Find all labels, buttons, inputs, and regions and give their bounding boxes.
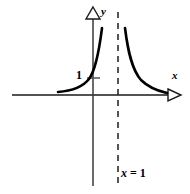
- asymptote-value-label: 1: [140, 166, 146, 180]
- x-axis-label: x: [172, 70, 178, 81]
- y-tick-label-one: 1: [76, 69, 82, 81]
- function-graph-figure: y x 1 x = 1: [0, 0, 190, 194]
- asymptote-label: x = 1: [121, 167, 146, 179]
- plot-canvas: [0, 0, 190, 194]
- asymptote-equals-sign: =: [130, 166, 137, 180]
- y-axis-label: y: [101, 6, 106, 17]
- curve-left-branch: [58, 28, 102, 92]
- x-axis-arrowhead-icon: [168, 89, 181, 101]
- curve-right-branch: [125, 28, 167, 93]
- y-axis-arrowhead-icon: [86, 7, 100, 19]
- asymptote-variable-label: x: [121, 166, 127, 180]
